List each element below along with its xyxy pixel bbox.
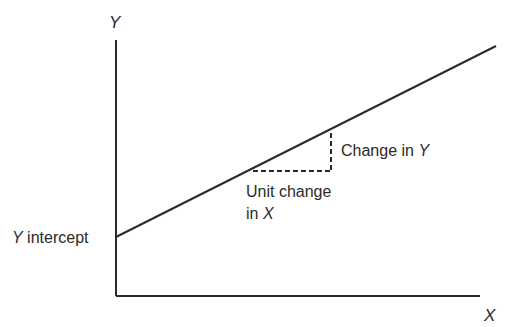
unit-change-label-line1: Unit change <box>246 183 331 201</box>
y-intercept-text: intercept <box>23 229 89 246</box>
change-in-y-text: Change in <box>341 142 418 159</box>
y-intercept-label: Y intercept <box>12 229 88 247</box>
x-axis-label: X <box>484 307 495 325</box>
y-axis-label: Y <box>109 14 120 32</box>
change-in-y-label: Change in Y <box>341 142 429 160</box>
diagram-canvas <box>0 0 505 327</box>
unit-change-label-line2: in X <box>246 205 274 223</box>
y-intercept-var: Y <box>12 229 23 246</box>
unit-change-x-var: X <box>263 205 274 222</box>
regression-line <box>116 46 496 237</box>
unit-change-in-text: in <box>246 205 263 222</box>
change-in-y-var: Y <box>418 142 429 159</box>
